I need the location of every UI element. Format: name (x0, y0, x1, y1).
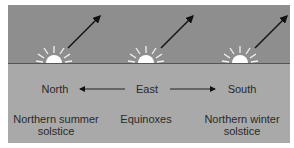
south-label: South (225, 83, 259, 95)
east-label: East (132, 83, 162, 95)
sun-rising-icon (222, 46, 258, 63)
winter-solstice-label-line2: solstice (198, 125, 286, 137)
sun-rising-icon (128, 46, 164, 63)
north-label: North (40, 83, 70, 95)
winter-solstice-label-line1: Northern winter (198, 113, 286, 125)
equinoxes-label: Equinoxes (115, 113, 177, 125)
sunrise-direction-arrow-icon (68, 16, 100, 48)
sun-rising-icon (36, 46, 72, 63)
summer-solstice-label-line1: Northern summer (8, 113, 104, 125)
summer-solstice-label-line2: solstice (8, 125, 104, 137)
sunrise-direction-arrow-icon (255, 16, 287, 48)
sunrise-direction-arrow-icon (161, 16, 193, 48)
